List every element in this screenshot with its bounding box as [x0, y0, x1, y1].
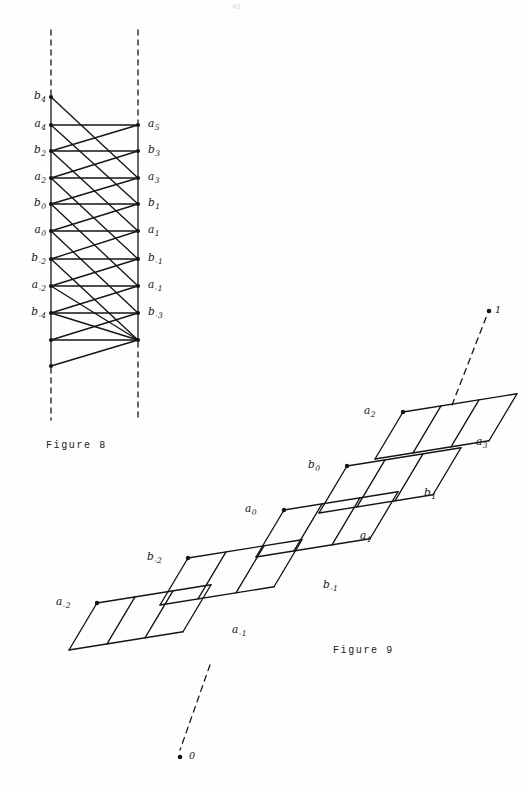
- label-base: a: [148, 278, 154, 290]
- figure-drawing-canvas: [0, 0, 528, 789]
- label-base: a: [364, 404, 370, 416]
- label-subscript: 5: [155, 123, 160, 132]
- label-base: a: [56, 595, 62, 607]
- figure9-dashed-rays: [180, 315, 487, 750]
- figure-page: 45 b4a4b2a2b0a0b-2a-2b-4a5b3a3b1a1b-1a-1…: [0, 0, 528, 789]
- label-base: b: [148, 251, 155, 263]
- label-subscript: -2: [39, 284, 47, 293]
- figure9-label-band-upper-mid-start: b0: [308, 459, 320, 470]
- label-subscript: 3: [155, 176, 160, 185]
- label-subscript: 2: [41, 176, 46, 185]
- label-base: b: [31, 305, 38, 317]
- label-base: b: [34, 143, 41, 155]
- label-base: a: [148, 223, 154, 235]
- figure8-right-label-0: a5: [148, 118, 160, 129]
- figure9-nodes: [95, 309, 492, 760]
- label-subscript: -1: [330, 584, 338, 593]
- figure8-left-label-5: a0: [22, 224, 46, 235]
- label-subscript: -2: [39, 257, 47, 266]
- figure9-label-band-lowest-start: a-2: [56, 596, 70, 607]
- label-subscript: -2: [63, 601, 71, 610]
- label-base: a: [360, 529, 366, 541]
- label-base: a: [476, 435, 482, 447]
- figure9-ray-endpoint-label-0: 0: [189, 750, 195, 761]
- label-subscript: 3: [483, 441, 488, 450]
- figure8-left-label-1: a4: [22, 118, 46, 129]
- figure9-label-band-lower-start: b-2: [147, 551, 162, 562]
- label-base: a: [148, 170, 154, 182]
- label-subscript: 1: [431, 492, 436, 501]
- label-base: a: [148, 117, 154, 129]
- label-base: b: [148, 305, 155, 317]
- label-subscript: -1: [155, 257, 163, 266]
- figure8-left-label-0: b4: [22, 90, 46, 101]
- figure9-label-band-upper-end: a1: [360, 530, 372, 541]
- figure9-label-band-upper-mid-end: b1: [424, 487, 436, 498]
- label-subscript: -1: [155, 284, 163, 293]
- label-subscript: 1: [367, 535, 372, 544]
- figure8-left-label-2: b2: [22, 144, 46, 155]
- label-base: a: [245, 502, 251, 514]
- label-base: b: [148, 143, 155, 155]
- label-base: a: [232, 623, 238, 635]
- label-base: b: [308, 458, 315, 470]
- label-subscript: -1: [239, 629, 247, 638]
- figure9-lattice-cells: [69, 394, 517, 650]
- figure9-label-band-highest-end: a3: [476, 436, 488, 447]
- label-subscript: 0: [252, 508, 257, 517]
- label-subscript: -4: [39, 311, 47, 320]
- figure9-label-band-lower-end: b-1: [323, 579, 338, 590]
- label-base: b: [147, 550, 154, 562]
- figure9-label-band-highest-start: a2: [364, 405, 376, 416]
- figure9-label-band-lowest-end: a-1: [232, 624, 246, 635]
- label-base: a: [34, 223, 40, 235]
- figure8-caption: Figure 8: [46, 440, 107, 451]
- figure8-right-label-6: a-1: [148, 279, 162, 290]
- figure8-left-label-6: b-2: [22, 252, 46, 263]
- label-base: b: [34, 89, 41, 101]
- label-base: a: [32, 278, 38, 290]
- label-base: b: [148, 196, 155, 208]
- label-subscript: 4: [41, 123, 46, 132]
- figure8-edges: [51, 97, 138, 366]
- label-base: b: [31, 251, 38, 263]
- label-subscript: 0: [41, 202, 46, 211]
- figure8-left-label-3: a2: [22, 171, 46, 182]
- figure9-ray-endpoint-label-1: 1: [495, 304, 501, 315]
- figure8-right-label-4: a1: [148, 224, 160, 235]
- figure8-right-label-5: b-1: [148, 252, 163, 263]
- label-base: b: [34, 196, 41, 208]
- label-subscript: 0: [315, 464, 320, 473]
- label-base: a: [34, 117, 40, 129]
- label-subscript: 4: [41, 95, 46, 104]
- label-subscript: -3: [155, 311, 163, 320]
- figure8-right-label-1: b3: [148, 144, 160, 155]
- label-subscript: 3: [155, 149, 160, 158]
- figure9-label-band-upper-start: a0: [245, 503, 257, 514]
- label-subscript: 2: [41, 149, 46, 158]
- label-base: a: [34, 170, 40, 182]
- label-subscript: 1: [155, 202, 160, 211]
- label-subscript: -2: [154, 556, 162, 565]
- figure9-caption: Figure 9: [333, 645, 394, 656]
- figure8-right-label-7: b-3: [148, 306, 163, 317]
- figure8-left-label-8: b-4: [22, 306, 46, 317]
- figure8-left-label-7: a-2: [22, 279, 46, 290]
- label-subscript: 2: [371, 410, 376, 419]
- label-base: b: [424, 486, 431, 498]
- label-subscript: 1: [155, 229, 160, 238]
- label-base: b: [323, 578, 330, 590]
- figure8-right-label-2: a3: [148, 171, 160, 182]
- label-subscript: 0: [41, 229, 46, 238]
- figure8-right-label-3: b1: [148, 197, 160, 208]
- figure8-left-label-4: b0: [22, 197, 46, 208]
